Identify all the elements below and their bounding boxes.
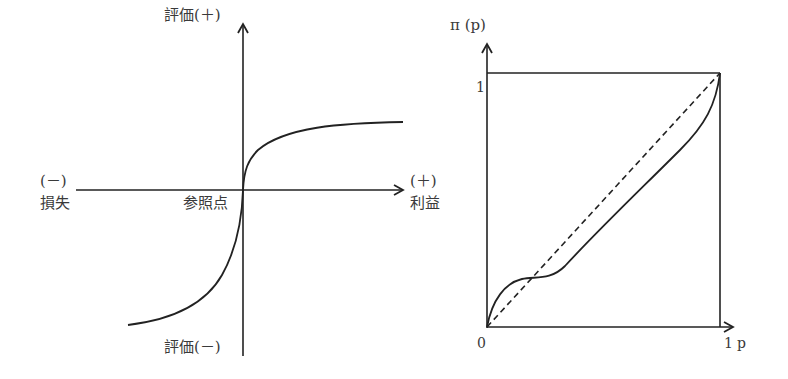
x-tick-1: 1 (724, 336, 733, 350)
figure-canvas (0, 0, 788, 379)
y-tick-1: 1 (476, 80, 485, 94)
value-function-chart (76, 24, 403, 356)
p-axis-label: p (737, 336, 746, 350)
gain-label: 利益 (410, 196, 440, 211)
y-negative-label: 評価(－) (164, 340, 221, 355)
gains-curve (243, 122, 403, 190)
loss-sign-label: (－) (40, 174, 67, 189)
y-positive-label: 評価(＋) (164, 8, 221, 23)
diagonal-dashed-line (487, 73, 720, 327)
gain-sign-label: (＋) (410, 174, 437, 189)
pi-axis-label: π (p) (450, 18, 486, 33)
loss-label: 損失 (40, 196, 70, 211)
reference-point-label: 参照点 (183, 196, 228, 211)
x-tick-0: 0 (477, 336, 486, 350)
probability-weighting-chart (487, 44, 733, 328)
